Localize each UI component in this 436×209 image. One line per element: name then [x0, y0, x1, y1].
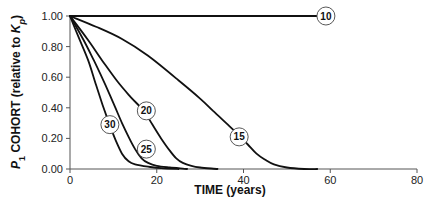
curve-15	[70, 16, 317, 169]
series-label-25: 25	[137, 140, 155, 158]
x-tick-label: 80	[411, 174, 423, 186]
chart: 0.000.200.400.600.801.00020406080 101520…	[0, 0, 436, 209]
y-axis-title-end: )	[9, 15, 23, 19]
label-text: 25	[141, 144, 153, 155]
y-tick-label: 0.00	[42, 163, 63, 175]
y-tick-label: 0.80	[42, 41, 63, 53]
axes: 0.000.200.400.600.801.00020406080	[42, 10, 424, 186]
label-text: 30	[104, 119, 116, 130]
y-tick-label: 0.60	[42, 71, 63, 83]
series-label-15: 15	[230, 128, 248, 146]
x-tick-label: 20	[151, 174, 163, 186]
curves	[70, 16, 317, 169]
x-tick-label: 60	[324, 174, 336, 186]
series-label-30: 30	[101, 116, 119, 134]
y-tick-label: 1.00	[42, 10, 63, 22]
label-text: 10	[320, 11, 332, 22]
y-tick-label: 0.20	[42, 132, 63, 144]
label-text: 20	[141, 105, 153, 116]
y-tick-label: 0.40	[42, 102, 63, 114]
x-axis-title: TIME (years)	[194, 183, 265, 197]
series-label-10: 10	[317, 7, 335, 25]
label-text: 15	[234, 131, 246, 142]
y-axis-title-mid: COHORT (relative to	[9, 33, 23, 156]
y-axis-title: P1 COHORT (relative to Kp)	[9, 15, 27, 169]
series-labels: 1015202530	[101, 7, 335, 158]
series-label-20: 20	[137, 102, 155, 120]
x-tick-label: 0	[67, 174, 73, 186]
